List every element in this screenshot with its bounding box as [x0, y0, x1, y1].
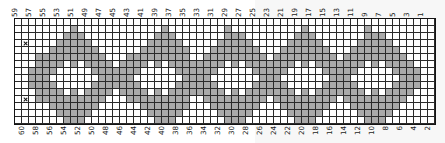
- grid-cell[interactable]: [414, 75, 421, 82]
- grid-cell[interactable]: [78, 26, 85, 33]
- grid-cell[interactable]: [337, 110, 344, 117]
- grid-cell[interactable]: [43, 54, 50, 61]
- grid-cell[interactable]: [15, 40, 22, 47]
- grid-cell[interactable]: [302, 110, 309, 117]
- grid-cell[interactable]: [29, 47, 36, 54]
- grid-cell[interactable]: [148, 47, 155, 54]
- grid-cell[interactable]: [407, 19, 414, 26]
- grid-cell[interactable]: [176, 54, 183, 61]
- grid-cell[interactable]: [197, 82, 204, 89]
- grid-cell[interactable]: [50, 33, 57, 40]
- grid-cell[interactable]: [99, 47, 106, 54]
- grid-cell[interactable]: [22, 54, 29, 61]
- grid-cell[interactable]: [302, 68, 309, 75]
- grid-cell[interactable]: [372, 61, 379, 68]
- grid-cell[interactable]: [316, 61, 323, 68]
- grid-cell[interactable]: [85, 40, 92, 47]
- grid-cell[interactable]: [92, 117, 99, 124]
- grid-cell[interactable]: [393, 96, 400, 103]
- grid-cell[interactable]: [134, 19, 141, 26]
- grid-cell[interactable]: [393, 82, 400, 89]
- grid-cell[interactable]: [127, 110, 134, 117]
- grid-cell[interactable]: [323, 54, 330, 61]
- grid-cell[interactable]: [50, 47, 57, 54]
- grid-cell[interactable]: [50, 110, 57, 117]
- grid-cell[interactable]: [78, 96, 85, 103]
- grid-cell[interactable]: [71, 103, 78, 110]
- grid-cell[interactable]: [127, 82, 134, 89]
- grid-cell[interactable]: [421, 96, 428, 103]
- grid-cell[interactable]: [365, 33, 372, 40]
- grid-cell[interactable]: [106, 61, 113, 68]
- grid-cell[interactable]: [57, 40, 64, 47]
- grid-cell[interactable]: [358, 47, 365, 54]
- grid-cell[interactable]: [267, 61, 274, 68]
- grid-cell[interactable]: [43, 26, 50, 33]
- grid-cell[interactable]: [302, 75, 309, 82]
- grid-cell[interactable]: [421, 19, 428, 26]
- grid-cell[interactable]: [414, 110, 421, 117]
- grid-cell[interactable]: [225, 68, 232, 75]
- grid-cell[interactable]: [36, 40, 43, 47]
- grid-cell[interactable]: [106, 26, 113, 33]
- grid-cell[interactable]: [15, 61, 22, 68]
- grid-cell[interactable]: [309, 117, 316, 124]
- grid-cell[interactable]: [211, 89, 218, 96]
- grid-cell[interactable]: [246, 82, 253, 89]
- grid-cell[interactable]: [239, 19, 246, 26]
- grid-cell[interactable]: [253, 110, 260, 117]
- grid-cell[interactable]: [134, 96, 141, 103]
- grid-cell[interactable]: [148, 40, 155, 47]
- grid-cell[interactable]: [148, 117, 155, 124]
- grid-cell[interactable]: [218, 47, 225, 54]
- grid-cell[interactable]: [85, 61, 92, 68]
- grid-cell[interactable]: [365, 103, 372, 110]
- grid-cell[interactable]: [421, 110, 428, 117]
- grid-cell[interactable]: [428, 26, 435, 33]
- grid-cell[interactable]: [57, 110, 64, 117]
- grid-cell[interactable]: [267, 96, 274, 103]
- grid-cell[interactable]: [218, 19, 225, 26]
- grid-cell[interactable]: [57, 96, 64, 103]
- grid-cell[interactable]: [330, 68, 337, 75]
- grid-cell[interactable]: [36, 68, 43, 75]
- grid-cell[interactable]: [211, 75, 218, 82]
- grid-cell[interactable]: [141, 96, 148, 103]
- grid-cell[interactable]: [127, 89, 134, 96]
- grid-cell[interactable]: [148, 26, 155, 33]
- grid-cell[interactable]: [428, 75, 435, 82]
- grid-cell[interactable]: [36, 103, 43, 110]
- grid-cell[interactable]: [281, 82, 288, 89]
- grid-cell[interactable]: [22, 89, 29, 96]
- grid-cell[interactable]: [204, 103, 211, 110]
- grid-cell[interactable]: [351, 33, 358, 40]
- grid-cell[interactable]: [253, 47, 260, 54]
- grid-cell[interactable]: [197, 110, 204, 117]
- grid-cell[interactable]: [190, 75, 197, 82]
- grid-cell[interactable]: [365, 26, 372, 33]
- grid-cell[interactable]: [295, 89, 302, 96]
- grid-cell[interactable]: [337, 61, 344, 68]
- grid-cell[interactable]: [211, 54, 218, 61]
- grid-cell[interactable]: [274, 40, 281, 47]
- grid-cell[interactable]: [29, 82, 36, 89]
- grid-cell[interactable]: [57, 54, 64, 61]
- grid-cell[interactable]: [365, 110, 372, 117]
- grid-cell[interactable]: [92, 96, 99, 103]
- grid-cell[interactable]: [85, 47, 92, 54]
- grid-cell[interactable]: [113, 26, 120, 33]
- grid-cell[interactable]: [400, 54, 407, 61]
- grid-cell[interactable]: [43, 103, 50, 110]
- grid-cell[interactable]: [365, 89, 372, 96]
- grid-cell[interactable]: [253, 82, 260, 89]
- grid-cell[interactable]: [43, 33, 50, 40]
- grid-cell[interactable]: [316, 68, 323, 75]
- grid-cell[interactable]: [190, 89, 197, 96]
- grid-cell[interactable]: [414, 33, 421, 40]
- grid-cell[interactable]: [323, 75, 330, 82]
- grid-cell[interactable]: [246, 47, 253, 54]
- grid-cell[interactable]: [267, 40, 274, 47]
- grid-cell[interactable]: [365, 19, 372, 26]
- grid-cell[interactable]: [232, 103, 239, 110]
- grid-cell[interactable]: [337, 47, 344, 54]
